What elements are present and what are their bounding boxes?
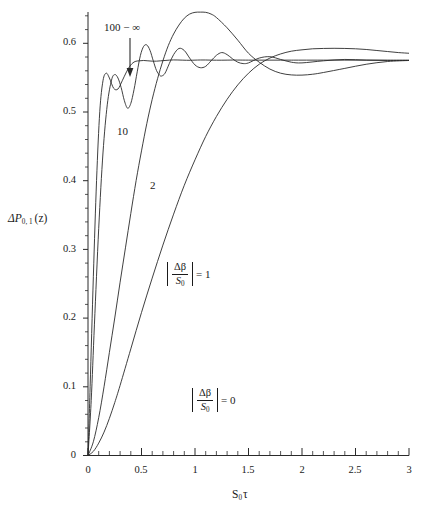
ratio-denominator-subscript-zero: 0 [206,406,210,414]
annotation-ratio-one-value: = 1 [193,269,210,280]
ratio-fraction: Δβ S0 [168,262,192,286]
y-axis-title-argument: (z) [35,212,48,224]
annotation-ratio-zero: Δβ S0 = 0 [192,388,236,412]
y-tick-label-0.1: 0.1 [50,381,76,392]
y-major-ticks [83,43,88,455]
curve-ratio-1 [88,48,409,455]
plot-canvas [0,0,423,514]
ratio-denominator-subscript: 0 [181,280,185,288]
y-axis-title-main: ΔP [8,212,22,224]
absolute-value-bars: Δβ S0 [167,262,193,286]
ratio-fraction-zero: Δβ S0 [193,388,217,412]
y-tick-label-0.6: 0.6 [50,37,76,48]
curve-label-10: 10 [117,126,128,137]
y-tick-label-0.5: 0.5 [50,106,76,117]
ratio-denominator-zero: S0 [197,400,213,413]
curve-label-100-infinity: 100 − ∞ [104,22,140,33]
x-tick-label-1: 1 [180,465,210,476]
figure-panel: 0 0.1 0.2 0.3 0.4 0.5 0.6 0 0.5 1 1.5 2 … [0,0,423,514]
x-tick-label-1.5: 1.5 [233,465,263,476]
ratio-numerator: Δβ [172,262,188,274]
x-tick-label-2.5: 2.5 [340,465,370,476]
y-tick-label-0.4: 0.4 [50,175,76,186]
ratio-denominator: S0 [172,274,188,287]
y-tick-label-0.3: 0.3 [50,244,76,255]
annotation-ratio-one: Δβ S0 = 1 [167,262,211,286]
curve-100-inf [88,60,409,456]
curve-label-2: 2 [150,180,156,191]
annotation-arrow [127,38,134,77]
x-major-ticks [88,448,409,456]
y-axis-title: ΔP0, 1(z) [8,213,47,225]
x-axis-title: S0τ [232,489,248,501]
x-tick-label-0.5: 0.5 [126,465,156,476]
y-tick-label-0: 0 [50,450,76,461]
x-tick-label-3: 3 [394,465,423,476]
x-axis-title-tau: τ [243,488,248,500]
data-curves [88,12,409,455]
y-tick-label-0.2: 0.2 [50,312,76,323]
x-axis-title-subscript: 0 [238,494,242,502]
absolute-value-bars-zero: Δβ S0 [192,388,218,412]
y-axis-title-subscript: 0, 1 [22,218,33,226]
ratio-numerator-zero: Δβ [197,388,213,400]
x-tick-label-2: 2 [287,465,317,476]
axis-group [83,12,409,456]
curve-10 [88,45,409,456]
x-tick-label-0: 0 [73,465,103,476]
annotation-ratio-zero-value: = 0 [218,395,235,406]
